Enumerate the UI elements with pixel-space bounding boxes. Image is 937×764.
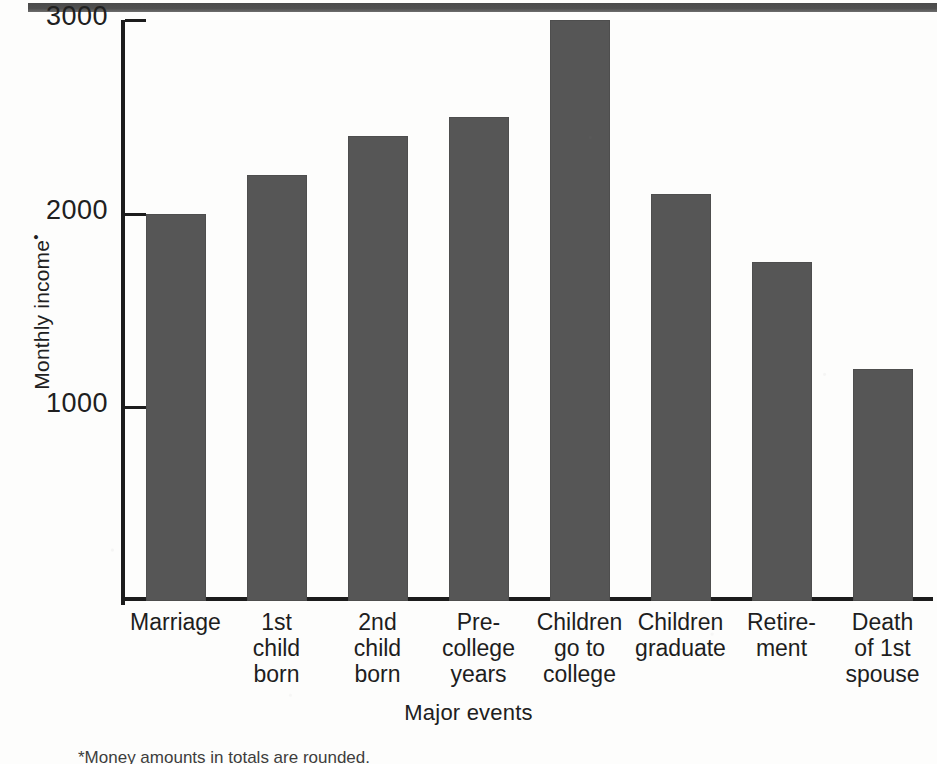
x-axis-category-labels: Marriage1st child born2nd child bornPre-… [125, 609, 933, 691]
bars-layer [125, 20, 933, 601]
bar-slot [651, 20, 711, 601]
bar-slot [146, 20, 206, 601]
bar [651, 194, 711, 601]
bar-slot [348, 20, 408, 601]
y-axis-tick-label-3000: 3000 [16, 1, 108, 32]
bar [752, 262, 812, 601]
bar [853, 369, 913, 601]
y-axis-title: Monthly income• [30, 102, 54, 522]
y-axis-footnote-marker: • [27, 234, 44, 239]
bar [146, 214, 206, 601]
bar [247, 175, 307, 601]
bar-slot [550, 20, 610, 601]
bar-chart: 100020003000 Monthly income• Marriage1st… [0, 0, 937, 764]
bar-slot [247, 20, 307, 601]
bar-slot [449, 20, 509, 601]
x-axis-title: Major events [0, 700, 937, 726]
x-axis-category-label: Death of 1st spouse [820, 609, 937, 687]
bar [550, 20, 610, 601]
bar-slot [752, 20, 812, 601]
y-axis-title-text: Monthly income [30, 240, 53, 390]
bar [348, 136, 408, 601]
bar-slot [853, 20, 913, 601]
bar [449, 117, 509, 601]
footnote-clipped: *Money amounts in totals are rounded. [78, 748, 838, 764]
